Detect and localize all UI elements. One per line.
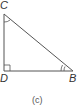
angle-arc-b-outer (61, 65, 63, 71)
angle-arc-c (4, 20, 10, 22)
triangle-cdb (4, 14, 73, 71)
figure-caption: (c) (32, 95, 43, 105)
vertex-label-b: B (69, 72, 76, 84)
vertex-label-c: C (0, 0, 8, 11)
right-angle-marker-d (4, 65, 10, 71)
right-triangle-diagram: C D B (c) (0, 0, 84, 106)
vertex-label-d: D (0, 72, 8, 84)
angle-arc-b-inner (64, 67, 65, 72)
